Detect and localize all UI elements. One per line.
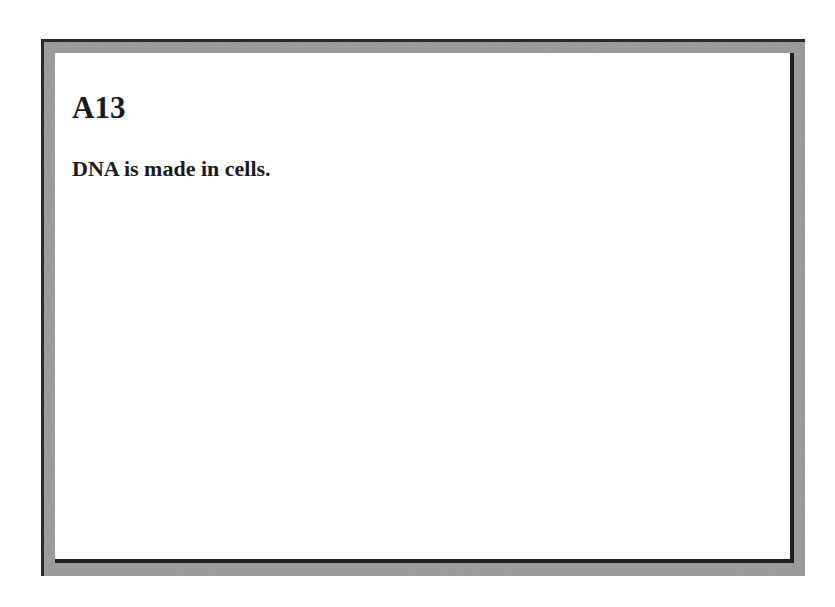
card-statement: DNA is made in cells. <box>72 158 271 180</box>
card-id-label: A13 <box>72 92 125 123</box>
statement-card: A13 DNA is made in cells. <box>55 53 794 563</box>
card-frame: A13 DNA is made in cells. <box>41 39 805 576</box>
